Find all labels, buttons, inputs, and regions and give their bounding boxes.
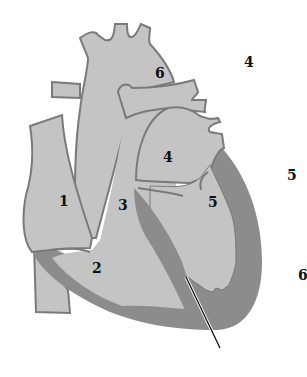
outer-label-6: 6 xyxy=(298,267,307,283)
pulmonary-artery-left-branch xyxy=(52,82,80,98)
label-3: 3 xyxy=(118,197,128,213)
heart-diagram: 1 2 3 4 5 6 4 5 6 xyxy=(0,0,307,377)
outer-label-4: 4 xyxy=(244,54,254,70)
label-6: 6 xyxy=(155,65,165,81)
outer-label-5: 5 xyxy=(287,167,297,183)
label-4: 4 xyxy=(163,149,173,165)
label-5: 5 xyxy=(208,194,218,210)
label-1: 1 xyxy=(59,193,69,209)
label-2: 2 xyxy=(92,260,102,276)
